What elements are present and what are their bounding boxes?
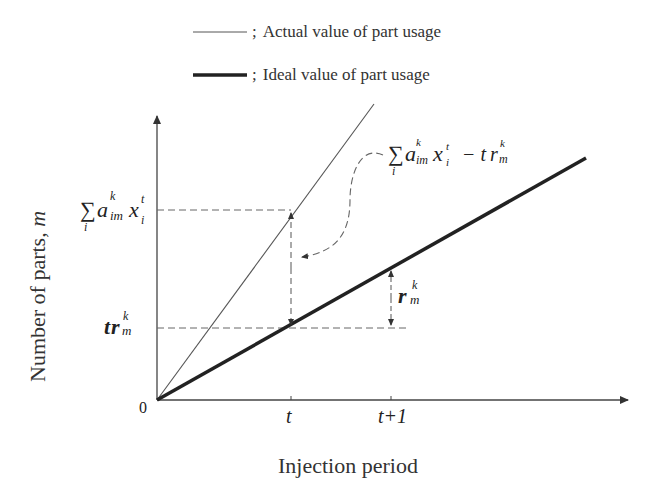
svg-text:− t: − t <box>462 143 486 165</box>
ideal-usage-line <box>157 158 586 400</box>
svg-text:r: r <box>398 283 407 308</box>
svg-text:m: m <box>122 323 131 338</box>
y-label-actual-sum: ∑ i a k im x t i <box>80 189 145 234</box>
svg-text:∑: ∑ <box>388 141 404 166</box>
svg-text:t: t <box>141 192 145 206</box>
diagram-canvas: ;Actual value of part usage ;Ideal value… <box>0 0 647 501</box>
x-axis-title: Injection period <box>278 453 418 478</box>
svg-text:r: r <box>111 314 120 339</box>
y-axis-title: Number of parts, m <box>25 211 50 382</box>
svg-text:∑: ∑ <box>80 197 96 222</box>
svg-text:a: a <box>97 197 108 222</box>
y-label-ideal: t r k m <box>104 309 131 339</box>
svg-text:r: r <box>490 143 498 165</box>
svg-text:i: i <box>446 156 449 168</box>
curved-pointer-arrow <box>302 153 383 257</box>
svg-text:i: i <box>141 213 144 227</box>
svg-text:x: x <box>432 141 443 166</box>
svg-text:im: im <box>110 208 123 223</box>
legend: ;Actual value of part usage ;Ideal value… <box>193 22 441 84</box>
svg-text:im: im <box>416 153 428 167</box>
svg-text:k: k <box>123 309 129 323</box>
svg-text:t: t <box>104 314 111 339</box>
x-tick-label-t: t <box>286 405 292 427</box>
difference-label: ∑ i a k im x t i − t r k m <box>388 136 508 178</box>
svg-text:k: k <box>416 136 422 148</box>
svg-text:m: m <box>499 152 508 166</box>
legend-item-actual: ;Actual value of part usage <box>252 22 441 41</box>
svg-text:k: k <box>500 137 506 149</box>
svg-text:k: k <box>412 278 418 292</box>
rate-label: r k m <box>398 278 419 308</box>
svg-text:i: i <box>392 164 395 178</box>
svg-text:x: x <box>128 197 139 222</box>
svg-text:k: k <box>110 189 116 203</box>
svg-text:m: m <box>410 292 419 307</box>
svg-text:i: i <box>84 220 87 234</box>
x-tick-label-t-plus-1: t+1 <box>378 405 407 427</box>
actual-usage-line <box>157 104 374 400</box>
legend-item-ideal: ;Ideal value of part usage <box>252 65 430 84</box>
svg-text:t: t <box>446 140 450 152</box>
origin-label: 0 <box>139 399 147 416</box>
svg-text:a: a <box>405 141 416 166</box>
